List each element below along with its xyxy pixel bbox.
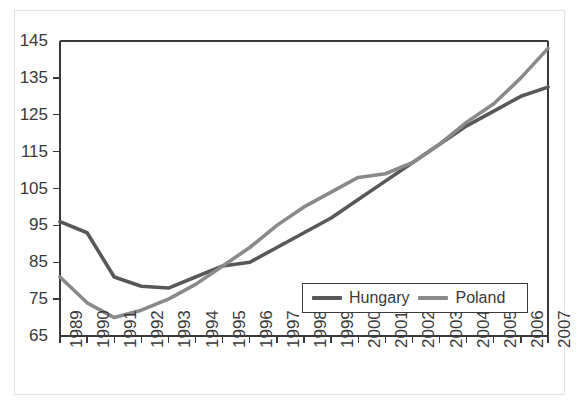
legend-label: Hungary <box>349 289 409 307</box>
legend-label: Poland <box>455 289 505 307</box>
x-axis-tick-label: 1996 <box>258 310 275 348</box>
x-axis-tick-label: 2003 <box>448 310 465 348</box>
x-axis-tick-label: 1993 <box>176 310 193 348</box>
legend-entry-hungary[interactable]: Hungary <box>303 289 409 307</box>
x-axis-tick-label: 1990 <box>95 310 112 348</box>
y-axis-tick-label: 145 <box>20 32 48 49</box>
series-group <box>60 48 548 317</box>
y-axis-tick-label: 75 <box>29 290 48 307</box>
y-axis-tick-label: 135 <box>20 69 48 86</box>
y-axis-tick-label: 85 <box>29 253 48 270</box>
x-axis-tick-label: 2000 <box>366 310 383 348</box>
x-axis-tick-label: 1997 <box>285 310 302 348</box>
series-line-poland <box>60 48 548 317</box>
y-axis-tick-label: 125 <box>20 106 48 123</box>
x-axis-tick-label: 1992 <box>149 310 166 348</box>
x-axis-tick-label: 2004 <box>475 310 492 348</box>
y-axis-tick-label: 105 <box>20 180 48 197</box>
x-axis-tick-label: 2006 <box>529 310 546 348</box>
y-axis-tick-label: 65 <box>29 327 48 344</box>
x-axis-tick-label: 2005 <box>502 310 519 348</box>
x-axis-tick-label: 1989 <box>68 310 85 348</box>
x-axis-tick-label: 1991 <box>122 310 139 348</box>
legend-swatch-icon <box>312 296 342 300</box>
y-axis-tick-label: 115 <box>21 143 48 160</box>
legend-swatch-icon <box>418 296 448 300</box>
y-axis-tick-label: 95 <box>29 216 48 233</box>
x-axis-tick-label: 1998 <box>312 310 329 348</box>
x-axis-tick-label: 1995 <box>231 310 248 348</box>
x-axis-tick-label: 1999 <box>339 310 356 348</box>
x-axis-tick-label: 2001 <box>393 310 410 348</box>
x-axis-tick-label: 1994 <box>204 310 221 348</box>
legend-entry-poland[interactable]: Poland <box>409 289 505 307</box>
x-axis-tick-label: 2002 <box>420 310 437 348</box>
chart-legend: HungaryPoland <box>302 283 528 313</box>
x-axis-tick-label: 2007 <box>556 310 573 348</box>
chart-figure: 65758595105115125135145 1989199019911992… <box>0 0 579 407</box>
